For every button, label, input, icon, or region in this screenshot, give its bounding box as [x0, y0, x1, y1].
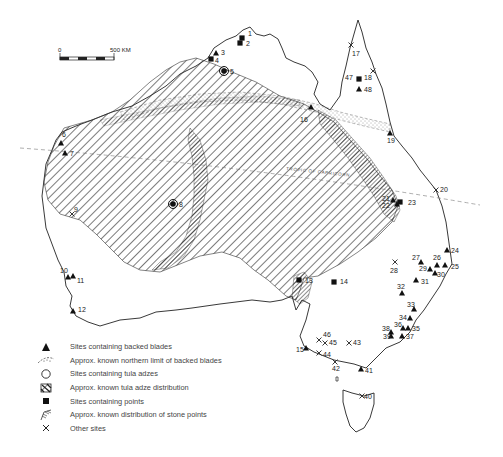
- site-number-label: 29: [419, 265, 427, 272]
- site-number-label: 33: [407, 301, 415, 308]
- site-number-label: 14: [340, 278, 348, 285]
- site-number-label: 39: [383, 333, 391, 340]
- site-number-label: 28: [390, 267, 398, 274]
- site-number-label: 43: [353, 339, 361, 346]
- legend: Sites containing backed blades Approx. k…: [34, 340, 284, 435]
- kangaroo-island: [336, 377, 338, 381]
- site-number-label: 10: [60, 267, 68, 274]
- scale-start-label: 0: [58, 47, 62, 53]
- legend-label: Approx. known northern limit of backed b…: [70, 356, 222, 365]
- legend-label: Other sites: [70, 424, 106, 433]
- site-number-label: 35: [412, 325, 420, 332]
- site-number-label: 23: [408, 199, 416, 206]
- site-number-label: 18: [364, 74, 372, 81]
- square-icon: [331, 279, 336, 284]
- legend-item-other-sites: Other sites: [34, 422, 284, 436]
- site-number-label: 34: [399, 314, 407, 321]
- site-number-label: 12: [78, 306, 86, 313]
- site-number-label: 6: [62, 131, 66, 138]
- legend-label: Sites containing backed blades: [70, 342, 172, 351]
- site-number-label: 44: [323, 351, 331, 358]
- site-number-label: 13: [305, 277, 313, 284]
- site-number-label: 19: [387, 137, 395, 144]
- scale-bar: 0 500 KM: [58, 47, 131, 60]
- filled-triangle-icon: [34, 341, 58, 353]
- site-number-label: 21: [382, 195, 390, 202]
- legend-item-point-sites: Sites containing points: [34, 394, 284, 408]
- site-number-label: 46: [323, 331, 331, 338]
- site-number-label: 17: [352, 50, 360, 57]
- site-number-label: 15: [296, 346, 304, 353]
- legend-label: Approx. known distribution of stone poin…: [70, 410, 207, 419]
- square-icon: [296, 277, 301, 282]
- site-number-label: 45: [329, 339, 337, 346]
- site-number-label: 4: [215, 57, 219, 64]
- site-number-label: 48: [364, 86, 372, 93]
- site-number-label: 38: [382, 325, 390, 332]
- site-number-label: 26: [433, 254, 441, 261]
- stippled-band-icon: [34, 354, 58, 366]
- legend-label: Approx. known tula adze distribution: [70, 383, 189, 392]
- site-number-label: 47: [345, 74, 353, 81]
- site-marker-blade: 41: [358, 366, 373, 374]
- dense-hatch-band-icon: [34, 409, 58, 421]
- filled-circle-icon: [221, 68, 227, 74]
- site-number-label: 42: [332, 365, 340, 372]
- site-number-label: 40: [364, 393, 372, 400]
- site-number-label: 37: [406, 333, 414, 340]
- site-number-label: 24: [451, 247, 459, 254]
- legend-item-backed-blades: Sites containing backed blades: [34, 340, 284, 354]
- site-number-label: 25: [451, 263, 459, 270]
- site-number-label: 32: [397, 283, 405, 290]
- site-number-label: 9: [74, 206, 78, 213]
- legend-label: Sites containing points: [70, 397, 144, 406]
- site-number-label: 22: [382, 202, 390, 209]
- scale-end-label: 500 KM: [110, 47, 131, 53]
- hatched-square-icon: [34, 382, 58, 394]
- filled-square-icon: [34, 395, 58, 407]
- site-number-label: 8: [179, 201, 183, 208]
- open-circle-icon: [34, 368, 58, 380]
- site-number-label: 31: [421, 278, 429, 285]
- site-number-label: 3: [221, 49, 225, 56]
- legend-label: Sites containing tula adzes: [70, 369, 158, 378]
- site-number-label: 16: [300, 116, 308, 123]
- site-number-label: 1: [248, 30, 252, 37]
- site-number-label: 27: [412, 254, 420, 261]
- site-number-label: 7: [70, 150, 74, 157]
- square-icon: [239, 35, 244, 40]
- cross-icon: [34, 422, 58, 434]
- site-number-label: 41: [365, 367, 373, 374]
- site-number-label: 11: [77, 277, 84, 284]
- site-number-label: 30: [437, 271, 445, 278]
- legend-item-point-distribution: Approx. known distribution of stone poin…: [34, 408, 284, 422]
- site-number-label: 5: [230, 68, 234, 75]
- legend-item-tula-distribution: Approx. known tula adze distribution: [34, 381, 284, 395]
- filled-circle-icon: [170, 201, 176, 207]
- square-icon: [397, 199, 402, 204]
- square-icon: [237, 40, 242, 45]
- legend-item-tula-sites: Sites containing tula adzes: [34, 367, 284, 381]
- site-number-label: 36: [394, 321, 402, 328]
- legend-item-northern-limit: Approx. known northern limit of backed b…: [34, 354, 284, 368]
- square-icon: [356, 76, 361, 81]
- square-icon: [208, 56, 213, 61]
- site-number-label: 20: [440, 186, 448, 193]
- site-number-label: 2: [246, 40, 250, 47]
